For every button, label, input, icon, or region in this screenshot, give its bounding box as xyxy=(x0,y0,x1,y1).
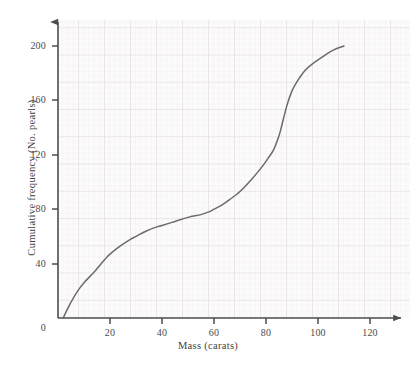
x-tick-label-60: 60 xyxy=(209,328,219,338)
x-tick-label-120: 120 xyxy=(362,328,378,338)
plot-area xyxy=(0,0,416,370)
x-axis-ticks xyxy=(110,318,370,324)
x-tick-label-100: 100 xyxy=(310,328,326,338)
y-axis-title: Cumulative frequency (No. pearls) xyxy=(26,63,37,293)
x-tick-label-20: 20 xyxy=(105,328,115,338)
x-tick-label-40: 40 xyxy=(157,328,167,338)
y-tick-label-200: 200 xyxy=(20,41,46,51)
cumulative-frequency-chart: 200 160 120 80 40 0 20 40 60 80 100 120 … xyxy=(0,0,416,370)
grid-background xyxy=(58,20,410,318)
y-axis-ticks xyxy=(52,46,58,264)
x-axis-title: Mass (carats) xyxy=(0,340,416,351)
y-tick-label-0: 0 xyxy=(20,323,46,333)
x-tick-label-80: 80 xyxy=(261,328,271,338)
